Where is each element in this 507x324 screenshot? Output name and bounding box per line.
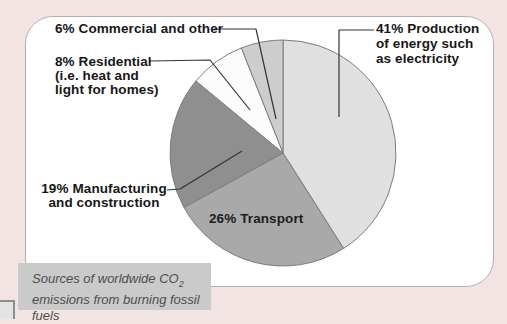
caption-box: Sources of worldwide CO2 emissions from … xyxy=(18,263,211,310)
caption-subscript: 2 xyxy=(179,279,184,289)
label-commercial: 6% Commercial and other xyxy=(55,22,223,37)
label-residential: 8% Residential (i.e. heat and light for … xyxy=(55,55,159,97)
label-transport: 26% Transport xyxy=(209,212,303,227)
label-manufacturing: 19% Manufacturing and construction xyxy=(36,182,172,210)
page-corner-fragment xyxy=(0,300,15,319)
pie-chart xyxy=(170,40,396,266)
caption-text-main: Sources of worldwide CO xyxy=(32,271,179,286)
label-production: 41% Production of energy such as electri… xyxy=(376,21,479,66)
caption-line-2: emissions from burning fossil fuels xyxy=(32,292,211,324)
caption-line-1: Sources of worldwide CO2 xyxy=(32,271,211,292)
